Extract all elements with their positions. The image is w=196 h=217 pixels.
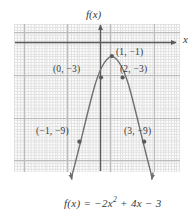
point-2-neg3 [121,75,125,79]
point-y-intercept-0-neg3 [99,75,103,79]
point-label-3-neg9: (3, −9) [124,126,151,136]
parabola-graph-figure: f(x) x (1, −1) (0, −3) (2, −3) (−1, −9) … [0,0,196,217]
curve-arrow-left [70,173,72,180]
point-label-2-neg3: (2, −3) [120,64,147,74]
point-label-y-intercept: (0, −3) [53,64,80,74]
equation-lhs: f(x) = −2 [64,197,108,209]
point-label-vertex: (1, −1) [116,47,143,57]
curve-arrow-right [152,173,154,180]
graph-overlay [0,0,196,217]
parabola-curve [72,56,153,177]
point-label-neg1-neg9: (−1, −9) [36,126,69,136]
function-equation-caption: f(x) = −2x2 + 4x − 3 [64,197,162,209]
point-vertex-1-neg1 [110,54,114,58]
x-axis-label: x [183,33,188,45]
equation-rhs: + 4x − 3 [117,197,161,209]
point-neg1-neg9 [77,140,81,144]
y-axis-label: f(x) [86,8,101,20]
point-3-neg9 [142,140,146,144]
